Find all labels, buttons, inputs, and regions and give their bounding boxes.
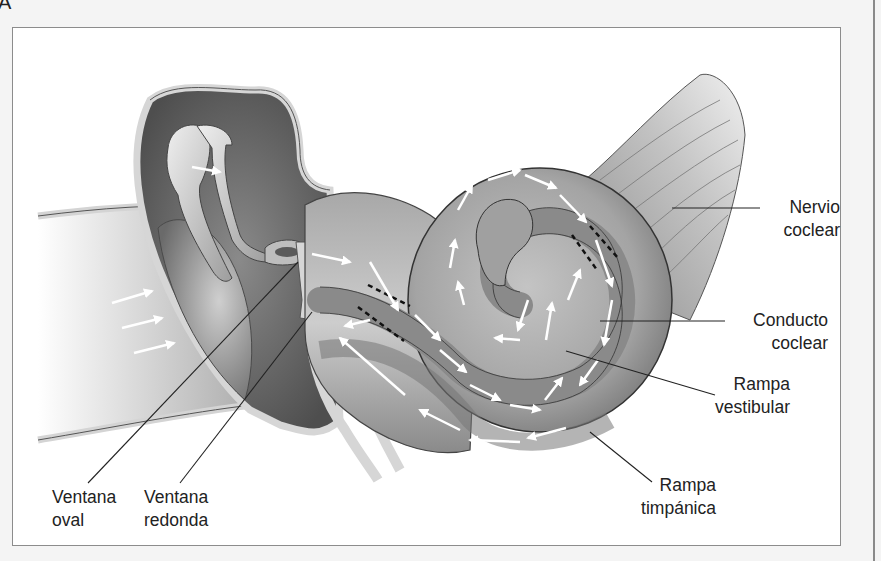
label-line: vestibular xyxy=(690,396,790,419)
label-line: redonda xyxy=(144,509,208,532)
label-ventana-oval: Ventana oval xyxy=(52,486,116,532)
label-ventana-redonda: Ventana redonda xyxy=(144,486,208,532)
label-line: Rampa xyxy=(616,474,716,497)
ear-diagram xyxy=(0,0,881,561)
label-line: Nervio xyxy=(760,196,840,219)
label-rampa-vestibular: Rampa vestibular xyxy=(690,373,790,419)
label-line: oval xyxy=(52,509,116,532)
label-line: Ventana xyxy=(52,486,116,509)
label-line: coclear xyxy=(760,219,840,242)
label-line: coclear xyxy=(728,332,828,355)
label-line: Conducto xyxy=(728,309,828,332)
label-conducto-coclear: Conducto coclear xyxy=(728,309,828,355)
label-rampa-timpanica: Rampa timpánica xyxy=(616,474,716,520)
label-line: Rampa xyxy=(690,373,790,396)
label-line: timpánica xyxy=(616,497,716,520)
label-nervio-coclear: Nervio coclear xyxy=(760,196,840,242)
label-line: Ventana xyxy=(144,486,208,509)
